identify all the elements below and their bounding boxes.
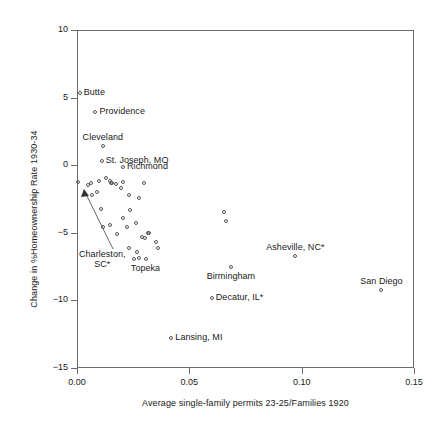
x-axis-tick-mark — [414, 368, 415, 374]
point-label-san-diego: San Diego — [360, 276, 402, 286]
y-axis-tick-mark — [71, 30, 77, 31]
x-axis-tick-label: 0.05 — [164, 377, 214, 387]
point-label-birmingham: Birmingham — [207, 271, 256, 281]
point-label-richmond: Richmond — [127, 161, 168, 171]
point-label-lansing-mi: Lansing, MI — [175, 332, 222, 342]
point-label-topeka: Topeka — [131, 263, 160, 273]
y-axis-tick-mark — [71, 300, 77, 301]
data-point — [121, 216, 125, 220]
data-point — [95, 190, 99, 194]
y-axis-tick-label: −5 — [28, 227, 68, 237]
data-point — [135, 250, 139, 254]
plot-area — [77, 30, 414, 368]
data-point — [132, 257, 136, 261]
data-point-cleveland — [101, 144, 105, 148]
x-axis-tick-label: 0.10 — [277, 377, 327, 387]
data-point — [142, 181, 146, 185]
point-label-charleston-sc: Charleston,SC* — [79, 249, 126, 269]
y-axis-tick-label: −10 — [28, 294, 68, 304]
y-axis-title-text: Change in %Homeownership Rate 1930-34 — [29, 130, 39, 307]
point-label-asheville-nc: Asheville, NC* — [266, 242, 324, 252]
data-point — [125, 225, 129, 229]
data-point — [101, 225, 105, 229]
data-point — [119, 186, 123, 190]
y-axis-tick-mark — [71, 98, 77, 99]
data-point — [104, 176, 108, 180]
x-axis-tick-mark — [77, 368, 78, 374]
data-point — [137, 256, 141, 260]
data-point-st-joseph-mo — [100, 159, 104, 163]
data-point — [90, 193, 94, 197]
scatter-plot-figure: Change in %Homeownership Rate 1930-34 10… — [0, 0, 443, 438]
x-axis-title: Average single-family permits 23-25/Fami… — [77, 398, 414, 408]
y-axis-tick-label: 5 — [28, 92, 68, 102]
point-label-decatur-il: Decatur, IL* — [216, 292, 264, 302]
data-point — [154, 240, 158, 244]
y-axis-title: Change in %Homeownership Rate 1930-34 — [36, 0, 72, 438]
y-axis-tick-label: 0 — [28, 159, 68, 169]
x-axis-tick-label: 0.15 — [389, 377, 439, 387]
x-axis-tick-label: 0.00 — [52, 377, 102, 387]
data-point-topeka — [144, 257, 148, 261]
point-label-line-1: Charleston, — [79, 249, 126, 259]
y-axis-tick-mark — [71, 233, 77, 234]
point-label-cleveland: Cleveland — [83, 132, 123, 142]
y-axis-tick-label: −15 — [28, 362, 68, 372]
x-axis-tick-mark — [189, 368, 190, 374]
point-label-butte: Butte — [84, 87, 105, 97]
y-axis-tick-label: 10 — [28, 24, 68, 34]
point-label-line-2: SC* — [79, 259, 126, 269]
point-label-providence: Providence — [99, 106, 145, 116]
x-axis-tick-mark — [302, 368, 303, 374]
y-axis-tick-mark — [71, 165, 77, 166]
data-point-butte — [78, 91, 82, 95]
data-point — [222, 210, 226, 214]
data-point-birmingham — [229, 265, 233, 269]
